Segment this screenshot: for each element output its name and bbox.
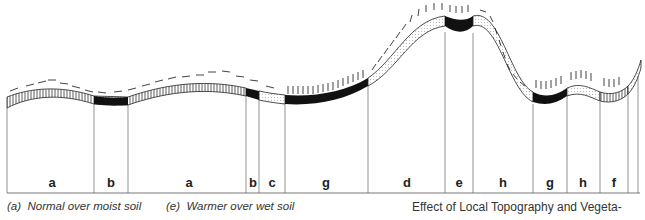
segment-label: h [499, 175, 507, 190]
terrain-dark-e [445, 16, 473, 32]
terrain-c [259, 91, 285, 104]
legend-text: Warmer over wet soil [186, 200, 294, 212]
segment-label: d [403, 175, 411, 190]
terrain-dark-g2 [533, 88, 567, 104]
segment-label: c [268, 175, 275, 190]
legend-key: (a) [7, 200, 21, 212]
segment-label: f [612, 175, 617, 190]
legend-item-e: (e) Warmer over wet soil [166, 200, 294, 212]
terrain-dark-b2 [246, 88, 259, 100]
segment-label: b [107, 175, 115, 190]
segment-label: b [249, 175, 257, 190]
terrain-d [368, 16, 445, 86]
segment-label: e [455, 175, 462, 190]
segment-label: g [546, 175, 554, 190]
topography-cross-section: a b a b c g d e h g h f [0, 0, 645, 200]
segment-label: a [48, 175, 56, 190]
terrain-h1 [473, 15, 533, 102]
figure-caption: Effect of Local Topography and Vegeta- [412, 200, 622, 214]
terrain-dark-g1 [285, 78, 368, 104]
segment-labels: a b a b c g d e h g h f [48, 175, 616, 190]
segment-label: a [185, 175, 193, 190]
legend-text: Normal over moist soil [27, 200, 141, 212]
segment-label: g [322, 175, 330, 190]
segment-dividers [7, 32, 638, 193]
terrain-right-end [628, 60, 641, 94]
legend-key: (e) [166, 200, 180, 212]
terrain-h2 [567, 85, 600, 101]
segment-label: h [579, 175, 587, 190]
terrain-f [600, 86, 628, 102]
legend-item-a: (a) Normal over moist soil [7, 200, 141, 212]
